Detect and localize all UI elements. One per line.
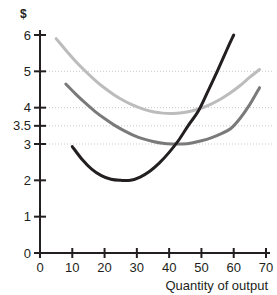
x-axis-title: Quantity of output xyxy=(165,278,268,293)
x-tick-label-0: 0 xyxy=(36,260,43,275)
y-axis-title: $ xyxy=(20,7,27,21)
x-tick-label-50: 50 xyxy=(194,260,208,275)
x-tick-label-20: 20 xyxy=(97,260,111,275)
y-axis-tick-labels: 01233.5456 xyxy=(13,28,31,261)
x-axis-tick-labels: 010203040506070 xyxy=(36,260,273,275)
y-tick-label-1: 1 xyxy=(24,209,31,224)
cost-curves-chart: 01233.5456 010203040506070 $ Quantity of… xyxy=(0,0,277,295)
chart-canvas: 01233.5456 010203040506070 $ Quantity of… xyxy=(0,0,277,295)
y-tick-label-3.5: 3.5 xyxy=(13,118,31,133)
y-tick-label-5: 5 xyxy=(24,64,31,79)
y-tick-label-6: 6 xyxy=(24,28,31,43)
x-tick-label-70: 70 xyxy=(259,260,273,275)
x-tick-label-40: 40 xyxy=(162,260,176,275)
y-tick-label-2: 2 xyxy=(24,173,31,188)
curve-marginal-cost xyxy=(72,35,233,181)
y-tick-label-3: 3 xyxy=(24,137,31,152)
x-tick-label-10: 10 xyxy=(65,260,79,275)
x-tick-label-60: 60 xyxy=(226,260,240,275)
gridlines xyxy=(40,71,272,144)
y-tick-label-4: 4 xyxy=(24,100,31,115)
y-tick-label-0: 0 xyxy=(24,246,31,261)
x-tick-label-30: 30 xyxy=(130,260,144,275)
